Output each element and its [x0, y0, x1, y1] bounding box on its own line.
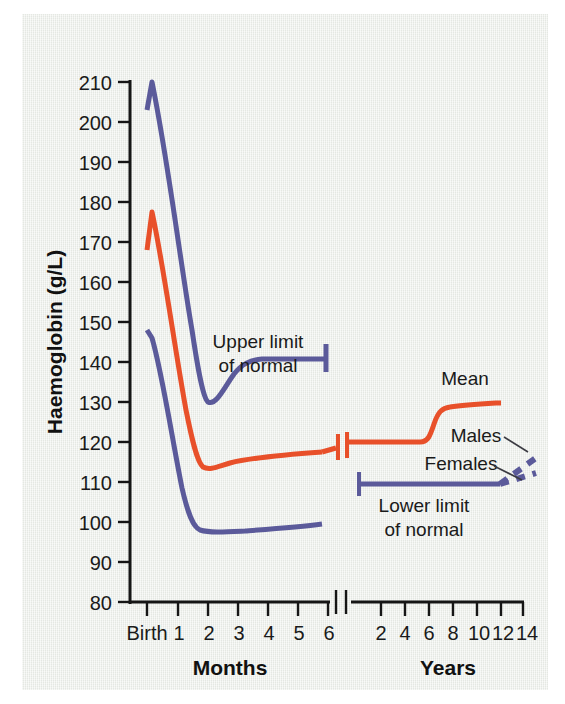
x-tick-label-month-5: 5 [293, 622, 304, 644]
annotation-upper-limit-line2: of normal [218, 355, 297, 376]
annotation-lower-limit-line1: Lower limit [379, 495, 471, 516]
y-axis: 210 200 190 180 170 160 150 140 130 120 … [43, 72, 130, 614]
x-tick-label-year-4: 4 [399, 622, 410, 644]
y-tick-label-190: 190 [79, 152, 112, 174]
figure-container: 210 200 190 180 170 160 150 140 130 120 … [0, 0, 565, 704]
y-tick-label-110: 110 [80, 472, 112, 494]
x-tick-label-year-2: 2 [375, 622, 386, 644]
annotation-mean: Mean [441, 368, 489, 389]
annotation-males: Males [451, 425, 502, 446]
x-tick-label-year-12: 12 [492, 622, 514, 644]
x-tick-label-month-4: 4 [263, 622, 274, 644]
annotation-upper-limit: Upper limit of normal [213, 331, 305, 376]
haemoglobin-chart: 210 200 190 180 170 160 150 140 130 120 … [0, 0, 565, 704]
x-tick-label-month-3: 3 [233, 622, 244, 644]
y-tick-label-180: 180 [79, 192, 112, 214]
x-tick-label-month-6: 6 [323, 622, 334, 644]
x-tick-label-month-2: 2 [203, 622, 214, 644]
annotation-lower-limit: Lower limit of normal [379, 495, 471, 540]
x-axis-months-ticks [147, 602, 328, 616]
y-tick-label-100: 100 [79, 512, 112, 534]
annotation-females: Females [425, 453, 498, 474]
x-tick-label-year-8: 8 [447, 622, 458, 644]
y-tick-label-130: 130 [79, 392, 112, 414]
x-axis-years: 2 4 6 8 10 12 14 Years [351, 602, 538, 679]
x-axis-years-labels: 2 4 6 8 10 12 14 [375, 622, 538, 644]
x-axis-title-years: Years [420, 656, 476, 679]
x-axis-title-months: Months [193, 656, 268, 679]
annotation-upper-limit-line1: Upper limit [213, 331, 305, 352]
x-axis-break [336, 590, 346, 614]
series-mean-break-left [322, 448, 336, 452]
series-mean-break-marks [338, 432, 347, 460]
annotation-males-leader [504, 437, 528, 452]
x-tick-label-birth: Birth [126, 622, 167, 644]
y-axis-title: Haemoglobin (g/L) [43, 250, 66, 434]
y-tick-label-200: 200 [79, 112, 112, 134]
y-tick-label-90: 90 [90, 552, 112, 574]
y-tick-label-150: 150 [79, 312, 112, 334]
x-axis-months: Birth 1 2 3 4 5 6 Months [126, 602, 334, 679]
x-tick-label-month-1: 1 [173, 622, 184, 644]
y-axis-ticks [118, 82, 130, 602]
x-tick-label-year-6: 6 [423, 622, 434, 644]
y-tick-label-160: 160 [79, 272, 112, 294]
y-tick-label-170: 170 [79, 232, 112, 254]
y-axis-tick-labels: 210 200 190 180 170 160 150 140 130 120 … [79, 72, 112, 614]
x-axis-months-labels: Birth 1 2 3 4 5 6 [126, 622, 334, 644]
x-axis-years-ticks [381, 602, 523, 616]
annotation-lower-limit-line2: of normal [384, 519, 463, 540]
y-tick-label-120: 120 [79, 432, 112, 454]
y-tick-label-140: 140 [79, 352, 112, 374]
y-tick-label-210: 210 [79, 72, 112, 94]
x-tick-label-year-14: 14 [516, 622, 538, 644]
y-tick-label-80: 80 [90, 592, 112, 614]
x-tick-label-year-10: 10 [468, 622, 490, 644]
